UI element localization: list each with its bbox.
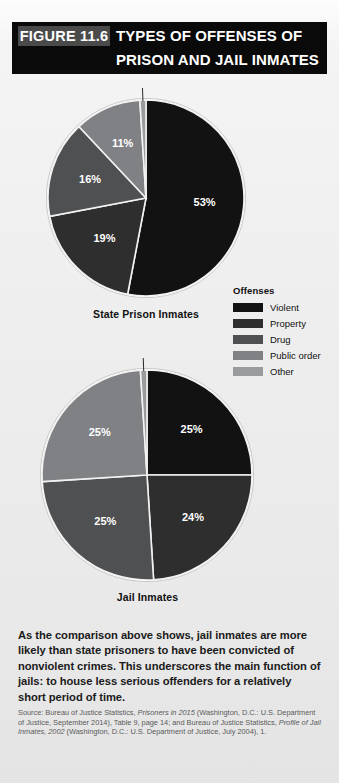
legend-item-violent: Violent <box>233 301 333 313</box>
summary-paragraph: As the comparison above shows, jail inma… <box>18 628 322 705</box>
pie-slice-label: 25% <box>89 426 111 438</box>
legend-label-drug: Drug <box>270 334 291 345</box>
legend-swatch-property <box>233 319 263 328</box>
legend-label-public-order: Public order <box>270 350 321 361</box>
figure-header: FIGURE 11.6 TYPES OF OFFENSES OF PRISON … <box>12 22 327 74</box>
pie-slice-label: 53% <box>194 196 216 208</box>
source-part-1: Source: Bureau of Justice Statistics, <box>18 708 138 717</box>
figure-title: TYPES OF OFFENSES OF PRISON AND JAIL INM… <box>116 24 322 72</box>
legend-item-property: Property <box>233 317 333 329</box>
pie-slice-label: 25% <box>181 423 203 435</box>
pie-slice-label: 25% <box>94 515 116 527</box>
pie-slice-label: 1% <box>136 355 152 356</box>
legend-swatch-drug <box>233 335 263 344</box>
figure-panel: FIGURE 11.6 TYPES OF OFFENSES OF PRISON … <box>0 0 339 783</box>
pie-chart-state-prison: 53%19%16%11%1% <box>46 86 246 302</box>
pie-slice-label: 24% <box>182 511 204 523</box>
legend-swatch-violent <box>233 303 263 312</box>
legend-label-other: Other <box>270 366 294 377</box>
chart-caption-jail-inmates: Jail Inmates <box>40 591 255 603</box>
figure-title-line-2: PRISON AND JAIL INMATES <box>116 48 322 72</box>
pie-slice-property <box>147 475 252 580</box>
source-part-3: (Washington, D.C.: U.S. Department of Ju… <box>65 727 267 736</box>
chart-state-prison-inmates: 53%19%16%11%1% State Prison Inmates <box>46 86 246 326</box>
legend-item-drug: Drug <box>233 333 333 345</box>
figure-number-badge: FIGURE 11.6 <box>18 26 110 46</box>
legend-label-property: Property <box>270 318 306 329</box>
chart-jail-inmates: 25%24%25%25%1% Jail Inmates <box>40 355 255 610</box>
figure-title-line-1: TYPES OF OFFENSES OF <box>116 24 322 48</box>
pie-slice-label: 11% <box>112 137 134 149</box>
pie-slice-drug <box>42 475 153 580</box>
pie-chart-jail-inmates: 25%24%25%25%1% <box>40 355 255 587</box>
chart-caption-state-prison: State Prison Inmates <box>46 308 246 320</box>
pie-slice-label: 16% <box>79 173 101 185</box>
pie-slice-label: 19% <box>93 232 115 244</box>
legend-title: Offenses <box>233 285 333 296</box>
source-title-1: Prisoners in 2015 <box>138 708 195 717</box>
legend-label-violent: Violent <box>270 302 299 313</box>
source-note: Source: Bureau of Justice Statistics, Pr… <box>18 708 322 737</box>
